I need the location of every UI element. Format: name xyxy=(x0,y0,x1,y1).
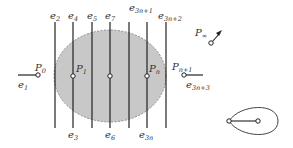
label-p0: P0 xyxy=(34,62,46,75)
graph-diagram: e2 e4 e5 e7 e3n+1 e3n+2 e3 e6 e3n P0 e1 … xyxy=(0,0,293,148)
teardrop-loop-icon xyxy=(227,107,278,134)
label-e3n2: e3n+2 xyxy=(158,10,182,23)
label-e3: e3 xyxy=(68,129,78,142)
label-pinf: P∞ xyxy=(194,27,207,40)
label-e7: e7 xyxy=(105,10,116,23)
node-pinf xyxy=(209,41,213,45)
node-p1 xyxy=(71,74,75,78)
node-middle xyxy=(108,74,112,78)
label-pn1: Pn+1 xyxy=(171,61,193,74)
label-e5: e5 xyxy=(87,10,97,23)
label-e3n3: e3n+3 xyxy=(186,79,210,92)
label-e2: e2 xyxy=(50,10,60,23)
node-p0 xyxy=(36,73,40,77)
label-e6: e6 xyxy=(105,129,115,142)
label-e4: e4 xyxy=(68,10,78,23)
label-e3n1: e3n+1 xyxy=(129,2,153,15)
arrow-icon xyxy=(209,30,222,45)
label-e1: e1 xyxy=(18,79,28,92)
node-pn xyxy=(145,74,149,78)
label-e3n: e3n xyxy=(139,129,153,142)
